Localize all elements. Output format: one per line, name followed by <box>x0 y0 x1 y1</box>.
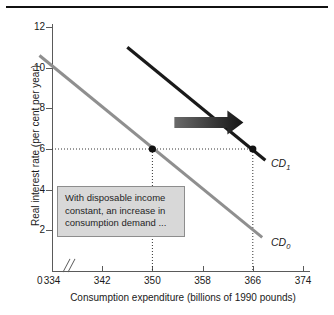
y-tick-6 <box>46 108 53 109</box>
x-axis-title: Consumption expenditure (billions of 199… <box>52 292 314 303</box>
figure-container: 12 10 8 6 4 2 0 334 342 350 358 366 374 … <box>0 0 334 315</box>
curve-label-cd1-sub: 1 <box>286 163 290 172</box>
y-axis-title: Real interest rate (per cent per year) <box>30 36 41 256</box>
note-line-2: constant, an increase in <box>65 205 178 218</box>
x-tick-342 <box>102 266 103 272</box>
y-tick-2 <box>46 27 53 28</box>
x-tick-358 <box>203 266 204 272</box>
y-tick-4 <box>46 68 53 69</box>
curve-label-cd1: CD1 <box>271 157 290 172</box>
note-line-1: With disposable income <box>65 192 178 205</box>
x-tick-label-334: 334 <box>32 275 72 286</box>
x-tick-label-350: 350 <box>132 275 172 286</box>
y-tick-12 <box>46 230 53 231</box>
x-tick-label-358: 358 <box>183 275 223 286</box>
curve-label-cd1-text: CD <box>271 157 286 169</box>
y-axis-line <box>52 24 53 272</box>
x-tick-334 <box>52 266 53 272</box>
x-tick-350 <box>152 266 153 272</box>
curve-label-cd0-sub: 0 <box>286 242 290 251</box>
note-textbox: With disposable income constant, an incr… <box>57 186 185 237</box>
x-axis-break-icon <box>62 258 80 274</box>
curve-label-cd0-text: CD <box>271 236 286 248</box>
y-tick-8 <box>46 149 53 150</box>
y-tick-10 <box>46 190 53 191</box>
x-tick-label-374: 374 <box>283 275 323 286</box>
curve-label-cd0: CD0 <box>271 236 290 251</box>
x-tick-label-366: 366 <box>233 275 273 286</box>
x-axis-line <box>52 271 310 272</box>
y-tick-label-12: 12 <box>21 22 45 32</box>
x-tick-366 <box>253 266 254 272</box>
x-tick-374 <box>303 266 304 272</box>
x-tick-label-342: 342 <box>82 275 122 286</box>
note-line-3: consumption demand ... <box>65 217 178 230</box>
